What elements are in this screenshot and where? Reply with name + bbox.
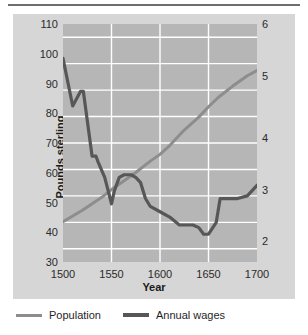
left-tick-label: 50 <box>46 197 58 208</box>
right-tick-label: 5 <box>262 70 268 81</box>
left-tick-label: 30 <box>46 257 58 268</box>
left-tick-label: 80 <box>46 108 58 119</box>
gridlines <box>63 24 257 262</box>
legend-item-annual-wages[interactable]: Annual wages <box>123 309 225 321</box>
left-tick-label: 90 <box>46 78 58 89</box>
right-tick-label: 4 <box>262 132 268 143</box>
left-tick-label: 60 <box>46 167 58 178</box>
x-tick-label: 1500 <box>51 269 75 280</box>
x-axis-title: Year <box>142 282 165 293</box>
chart-figure: Pounds sterling Population (in millions)… <box>0 0 308 335</box>
top-divider-rule <box>8 4 300 6</box>
left-tick-label: 100 <box>40 48 58 59</box>
line-swatch-annual-wages-icon <box>123 313 149 317</box>
right-tick-label: 3 <box>262 184 268 195</box>
chart-panel: Pounds sterling Population (in millions)… <box>13 14 295 299</box>
legend-label-population: Population <box>49 309 101 321</box>
left-tick-label: 40 <box>46 227 58 238</box>
line-swatch-population-icon <box>16 314 42 317</box>
legend-item-population[interactable]: Population <box>16 309 101 321</box>
plot-area: 110 100 90 80 70 60 50 40 30 6 5 4 3 2 1… <box>63 24 257 262</box>
legend-label-annual-wages: Annual wages <box>156 309 225 321</box>
x-tick-label: 1600 <box>148 269 172 280</box>
right-tick-label: 2 <box>262 236 268 247</box>
x-tick-label: 1650 <box>196 269 220 280</box>
left-tick-label: 110 <box>40 19 58 30</box>
x-tick-label: 1700 <box>245 269 269 280</box>
left-tick-label: 70 <box>46 138 58 149</box>
chart-canvas <box>63 24 257 262</box>
right-tick-label: 6 <box>262 19 268 30</box>
x-tick-label: 1550 <box>99 269 123 280</box>
chart-legend: Population Annual wages <box>16 309 225 321</box>
